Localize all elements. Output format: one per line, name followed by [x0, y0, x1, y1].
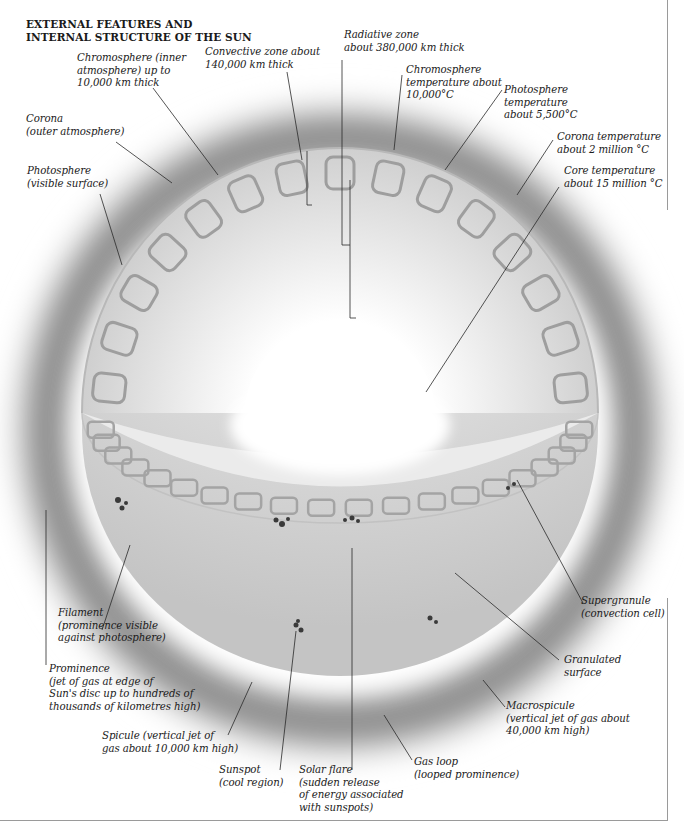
label-supergranule: Supergranule (convection cell)	[581, 595, 665, 620]
frame-line-top-right	[667, 0, 668, 210]
label-filament: Filament (prominence visible against pho…	[58, 607, 166, 645]
label-radiative-zone: Radiative zone about 380,000 km thick	[344, 29, 465, 54]
label-convective-zone: Convective zone about 140,000 km thick	[205, 46, 320, 71]
label-core-temperature: Core temperature about 15 million °C	[564, 165, 662, 190]
label-corona: Corona (outer atmosphere)	[26, 113, 124, 138]
label-spicule: Spicule (vertical jet of gas about 10,00…	[102, 730, 238, 755]
label-prominence: Prominence (jet of gas at edge of Sun's …	[49, 663, 200, 713]
title-line-2: INTERNAL STRUCTURE OF THE SUN	[26, 31, 252, 44]
label-photosphere: Photosphere (visible surface)	[27, 165, 108, 190]
frame-line-bottom	[0, 820, 668, 821]
label-granulated-surface: Granulated surface	[564, 654, 621, 679]
label-sunspot: Sunspot (cool region)	[219, 764, 284, 789]
label-chromosphere-inner: Chromosphere (inner atmosphere) up to 10…	[77, 52, 186, 90]
label-macrospicule: Macrospicule (vertical jet of gas about …	[506, 700, 630, 738]
sun-structure-diagram: EXTERNAL FEATURES AND INTERNAL STRUCTURE…	[0, 0, 684, 828]
label-corona-temperature: Corona temperature about 2 million °C	[557, 131, 661, 156]
label-photosphere-temperature: Photosphere temperature about 5,500°C	[504, 84, 577, 122]
label-solar-flare: Solar flare (sudden release of energy as…	[299, 764, 404, 814]
label-gas-loop: Gas loop (looped prominence)	[414, 756, 519, 781]
label-chromosphere-temperature: Chromosphere temperature about 10,000°C	[406, 64, 502, 102]
frame-line-bottom-right	[667, 598, 668, 820]
diagram-title: EXTERNAL FEATURES AND INTERNAL STRUCTURE…	[26, 18, 252, 44]
title-line-1: EXTERNAL FEATURES AND	[26, 18, 252, 31]
